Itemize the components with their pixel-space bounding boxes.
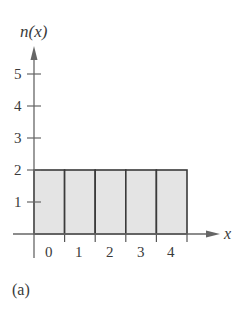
x-tick-label-2: 2 — [106, 245, 114, 260]
x-axis-arrow-icon — [206, 231, 220, 238]
y-tick-label-2: 2 — [14, 163, 22, 178]
bar-1 — [65, 170, 96, 234]
x-axis-label: x — [224, 226, 231, 242]
figure-caption: (a) — [12, 282, 30, 298]
bars — [34, 170, 187, 234]
bar-3 — [126, 170, 157, 234]
x-tick-label-1: 1 — [75, 245, 83, 260]
y-tick-label-3: 3 — [14, 131, 22, 146]
histogram-plot — [0, 0, 245, 313]
y-tick-label-1: 1 — [14, 195, 22, 210]
bar-4 — [156, 170, 187, 234]
x-ticks — [65, 234, 187, 242]
x-tick-label-4: 4 — [167, 245, 175, 260]
y-tick-label-5: 5 — [14, 67, 22, 82]
bar-2 — [95, 170, 126, 234]
x-tick-label-0: 0 — [45, 245, 53, 260]
y-axis-arrow-icon — [31, 46, 38, 60]
y-axis-label: n(x) — [20, 23, 47, 40]
y-tick-label-4: 4 — [14, 99, 22, 114]
x-tick-label-3: 3 — [137, 245, 145, 260]
